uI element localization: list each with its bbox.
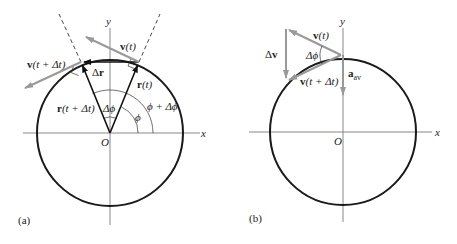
delta-phi-label: Δϕ [305,49,318,61]
a-av-label: aav [348,67,361,82]
phi-plus-delta-phi-label: ϕ + Δϕ [147,100,178,112]
v-t-dt-label: v(t + Δt) [300,75,339,88]
y-axis-label: y [339,15,345,27]
phi-label: ϕ [135,111,141,123]
panel-b-caption: (b) [249,212,262,225]
x-axis-label: x [434,126,440,138]
panel-b: x y O v(t) v(t + Δt) Δv Δϕ aav (b) [249,15,440,225]
delta-v-label: Δv [265,48,278,60]
dashed-extension-right [139,14,160,62]
r-t-label: r(t) [137,78,153,91]
v-t-label: v(t) [313,29,329,42]
r-t-vector [110,66,138,134]
delta-phi-label: Δϕ [102,102,115,114]
y-axis-label: y [105,15,111,27]
panel-a-caption: (a) [18,214,31,227]
origin-label: O [101,136,109,148]
v-t-dt-label: v(t + Δt) [27,58,66,71]
panel-a: x y O v(t) v(t + Δt) Δr r(t) r(t + Δt) Δ… [18,14,206,227]
circular-motion-diagram: x y O v(t) v(t + Δt) Δr r(t) r(t + Δt) Δ… [0,0,457,244]
origin-label: O [334,135,342,147]
x-axis-label: x [200,127,206,139]
dashed-extension-left [59,14,81,62]
v-t-label: v(t) [120,40,136,53]
r-t-dt-label: r(t + Δt) [57,102,95,115]
delta-r-label: Δr [92,66,104,78]
